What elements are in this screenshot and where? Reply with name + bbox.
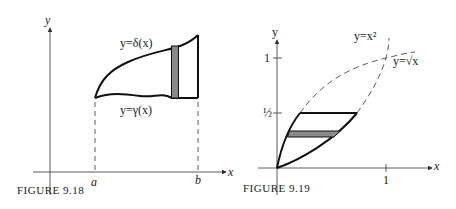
- fig18-shaded-strip: [172, 46, 179, 98]
- fig19-dashed-curves: [300, 38, 415, 113]
- fig18-y-axis-label: y: [45, 14, 50, 26]
- fig19-y-tick-1: 1: [264, 52, 270, 64]
- fig19-parabola-label: y=x²: [354, 30, 376, 42]
- fig18-tick-b: b: [195, 174, 201, 186]
- fig19-region: [277, 113, 357, 168]
- fig19-sqrt-label: y=√x: [393, 55, 418, 67]
- fig19-x-axis-label: x: [434, 160, 439, 172]
- fig18-caption: FIGURE 9.18: [17, 184, 84, 196]
- fig18-lower-curve-label: y=γ(x): [120, 104, 152, 116]
- fig19-caption: FIGURE 9.19: [243, 182, 310, 194]
- fig19-y-axis-label: y: [272, 26, 278, 38]
- fig19-x-tick-1: 1: [383, 174, 389, 186]
- fig19-y-tick-half: ½: [263, 107, 272, 119]
- fig18-tick-a: a: [91, 176, 97, 188]
- fig18-upper-curve-label: y=δ(x): [120, 37, 152, 49]
- fig19-shaded-strip: [288, 131, 341, 137]
- fig18-x-axis-label: x: [228, 166, 233, 178]
